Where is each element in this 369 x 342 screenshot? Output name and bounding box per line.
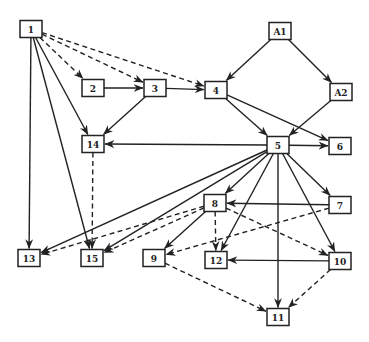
edge-A1-to-4: [226, 40, 270, 81]
edge-1-to-14: [36, 38, 88, 135]
node-label: 12: [210, 256, 223, 266]
dependency-graph: 1A1234A214568713159121011: [0, 0, 369, 342]
node-label: 10: [334, 257, 347, 267]
node-14: 14: [82, 136, 104, 153]
node-4: 4: [205, 82, 227, 99]
edge-5-to-14: [105, 144, 267, 145]
edge-1-to-15: [33, 38, 89, 249]
edge-3-to-14: [104, 97, 146, 135]
edge-8-to-13: [41, 206, 204, 254]
node-6: 6: [329, 138, 351, 155]
node-12: 12: [205, 252, 227, 269]
edge-1-to-3: [42, 34, 143, 82]
edge-5-to-15: [104, 152, 267, 251]
node-label: 2: [90, 84, 96, 94]
node-A2: A2: [330, 84, 352, 101]
node-label: 7: [337, 201, 343, 211]
edge-A2-to-5: [289, 101, 331, 136]
node-9: 9: [143, 250, 165, 267]
edge-7-to-8: [227, 203, 329, 205]
edges-layer: [29, 33, 335, 312]
edge-10-to-11: [289, 270, 331, 308]
node-label: 6: [337, 142, 343, 152]
node-label: A2: [333, 88, 347, 98]
node-10: 10: [329, 253, 351, 270]
node-label: 14: [87, 140, 100, 150]
node-label: 5: [275, 141, 281, 151]
node-label: 9: [151, 254, 157, 264]
node-1: 1: [20, 21, 42, 38]
node-label: 15: [86, 254, 99, 264]
node-label: 13: [23, 254, 36, 264]
node-label: 4: [213, 86, 219, 96]
edge-7-to-9: [166, 208, 329, 254]
nodes-layer: 1A1234A214568713159121011: [18, 21, 352, 326]
node-5: 5: [267, 137, 289, 154]
node-label: 8: [212, 199, 218, 209]
node-3: 3: [144, 80, 166, 97]
edge-14-to-15: [92, 153, 93, 249]
node-7: 7: [329, 197, 351, 214]
edge-8-to-12: [215, 212, 216, 251]
node-8: 8: [204, 195, 226, 212]
edge-5-to-13: [41, 150, 267, 253]
edge-8-to-15: [104, 208, 204, 253]
edge-A1-to-A2: [289, 40, 332, 83]
edge-8-to-10: [226, 208, 328, 255]
edge-9-to-11: [165, 263, 266, 311]
node-label: A1: [272, 27, 286, 37]
edge-1-to-4: [42, 33, 204, 86]
node-A1: A1: [269, 23, 291, 40]
node-label: 1: [28, 25, 34, 35]
node-label: 11: [272, 313, 285, 323]
edge-10-to-12: [228, 260, 329, 261]
edge-3-to-4: [166, 88, 204, 89]
node-11: 11: [267, 309, 289, 326]
node-15: 15: [81, 250, 103, 267]
edge-5-to-6: [289, 145, 328, 146]
edge-4-to-6: [227, 95, 328, 141]
node-label: 3: [152, 84, 158, 94]
node-2: 2: [82, 80, 104, 97]
graph-canvas: 1A1234A214568713159121011: [0, 0, 369, 342]
edge-1-to-13: [29, 38, 31, 249]
edge-5-to-10: [283, 154, 335, 252]
node-13: 13: [18, 250, 40, 267]
